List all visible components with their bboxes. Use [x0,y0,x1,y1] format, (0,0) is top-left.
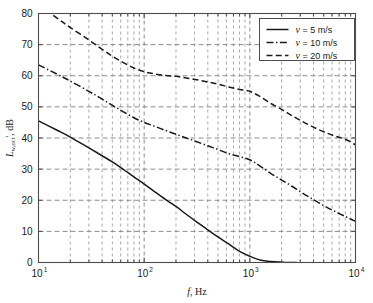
y-axis-label: Lw,oct', dB [4,119,16,158]
y-tick-label: 20 [21,195,33,206]
legend-label: v = 10 m/s [296,37,338,48]
svg-text:2: 2 [149,266,153,273]
y-tick-labels: 01020304050607080 [21,8,33,268]
svg-text:4: 4 [361,266,365,273]
svg-text:10: 10 [349,268,361,279]
y-tick-label: 40 [21,133,33,144]
y-tick-label: 30 [21,164,33,175]
svg-text:Lw,oct', dB: Lw,oct', dB [4,119,16,158]
legend-label: v = 20 m/s [296,50,338,61]
svg-text:f, Hz: f, Hz [187,286,207,297]
legend-label: v = 5 m/s [296,24,333,35]
chart-svg: 01020304050607080 101102103104 f, HzLw,o… [0,0,373,303]
chart-legend: v = 5 m/sv = 10 m/sv = 20 m/s [260,19,355,61]
y-tick-label: 80 [21,8,33,19]
y-tick-label: 0 [27,257,33,268]
chart-figure: 01020304050607080 101102103104 f, HzLw,o… [0,0,373,303]
y-tick-label: 50 [21,101,33,112]
y-tick-label: 70 [21,39,33,50]
y-tick-label: 10 [21,226,33,237]
x-axis-label: f, Hz [187,286,207,297]
svg-text:1: 1 [44,266,48,273]
svg-text:10: 10 [32,268,44,279]
svg-text:10: 10 [137,268,149,279]
y-tick-label: 60 [21,70,33,81]
svg-text:10: 10 [243,268,255,279]
svg-text:3: 3 [255,266,259,273]
